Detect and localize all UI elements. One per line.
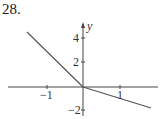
y-tick-label: 2 (73, 55, 79, 69)
y-tick-label: −2 (68, 103, 81, 117)
y-axis-label: y (86, 19, 93, 33)
x-tick-label: −1 (40, 88, 53, 102)
x-tick-label: 1 (117, 88, 123, 102)
graph: y −1 1 4 2 −2 (0, 0, 160, 119)
y-tick-label: 4 (73, 31, 79, 45)
y-axis-arrow-icon (81, 22, 85, 28)
